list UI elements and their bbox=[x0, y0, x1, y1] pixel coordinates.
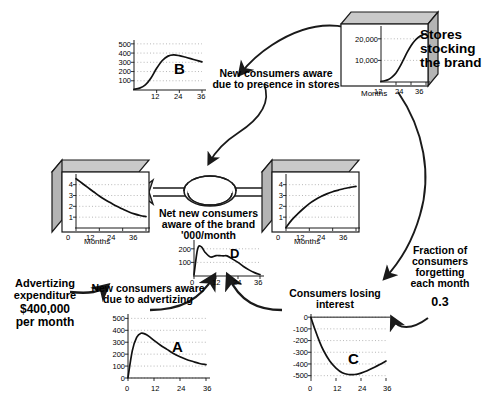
axis-title-right-stock: Months bbox=[294, 237, 320, 246]
ytick-label: 200 bbox=[118, 67, 131, 76]
chart-box-a[interactable]: 0100200300400500 0 12 24 36 A bbox=[96, 312, 218, 392]
label-stores-stocking: Stores stocking the brand bbox=[420, 28, 492, 71]
box-top-face bbox=[262, 160, 359, 172]
ytick-label: 500 bbox=[118, 40, 131, 49]
ytick-label: 200 bbox=[112, 350, 125, 359]
ytick-label: 500 bbox=[112, 314, 125, 323]
chart-box-left-stock[interactable]: 1234 0 12 24 36 Months bbox=[52, 158, 150, 240]
ytick-label: 1 bbox=[69, 213, 73, 222]
xtick-24: 24 bbox=[358, 384, 366, 393]
box-top-face bbox=[341, 12, 438, 24]
axis-title-stores: Months bbox=[361, 89, 387, 98]
xtick-24: 24 bbox=[233, 278, 241, 287]
label-forgetting-value: 0.3 bbox=[390, 296, 490, 309]
label-new-aware-stores: New consumers aware due to presence in s… bbox=[206, 68, 346, 90]
box-left-face bbox=[52, 160, 62, 232]
ytick-label: 3 bbox=[69, 191, 73, 200]
chart-letter-b: B bbox=[174, 60, 185, 77]
box-front-face bbox=[341, 24, 428, 86]
plot-area-a: 0100200300400500 bbox=[112, 314, 210, 383]
ytick-label: 10,000 bbox=[355, 56, 378, 65]
ytick-label: 0 bbox=[304, 313, 308, 322]
ytick-label: 4 bbox=[69, 180, 73, 189]
data-series-a bbox=[128, 333, 206, 377]
box-top-face bbox=[52, 160, 149, 172]
ytick-label: 4 bbox=[279, 180, 283, 189]
xtick-36: 36 bbox=[129, 233, 137, 242]
xtick-36: 36 bbox=[415, 87, 423, 96]
xtick-0: 0 bbox=[308, 384, 312, 393]
ytick-label: -400 bbox=[293, 360, 308, 369]
xtick-36: 36 bbox=[383, 384, 391, 393]
arrow-new-aware-stores-to-valve bbox=[209, 84, 266, 163]
chart-box-b[interactable]: 100200300400500 12 24 36 B bbox=[108, 38, 214, 100]
valve-mask bbox=[188, 180, 232, 194]
xtick-12: 12 bbox=[151, 384, 159, 393]
xtick-24: 24 bbox=[177, 384, 185, 393]
xtick-24: 24 bbox=[174, 92, 182, 101]
axis-title-left-stock: Months bbox=[84, 237, 110, 246]
xtick-12: 12 bbox=[151, 92, 159, 101]
chart-letter-a: A bbox=[172, 338, 183, 355]
ytick-label: 20,000 bbox=[355, 35, 378, 44]
xtick-36: 36 bbox=[254, 278, 262, 287]
chart-a: 0100200300400500 0 12 24 36 A bbox=[96, 312, 218, 392]
chart-c: 0-100-200-300-400-500 0 12 24 36 C bbox=[276, 312, 398, 392]
ytick-label: 2 bbox=[69, 202, 73, 211]
ytick-label: 300 bbox=[112, 338, 125, 347]
ytick-label: 2 bbox=[279, 202, 283, 211]
chart-box-c[interactable]: 0-100-200-300-400-500 0 12 24 36 C bbox=[276, 312, 398, 392]
chart-box-right-stock[interactable]: 1234 0 12 24 36 Months bbox=[262, 158, 360, 240]
data-series-d bbox=[194, 246, 260, 275]
label-forgetting-fraction: Fraction of consumers forgetting each mo… bbox=[390, 245, 490, 289]
ytick-label: -200 bbox=[293, 336, 308, 345]
ytick-label: 400 bbox=[118, 49, 131, 58]
chart-b: 100200300400500 12 24 36 B bbox=[108, 38, 214, 100]
xtick-12: 12 bbox=[212, 278, 220, 287]
label-advertizing-amount: $400,000 per month bbox=[2, 303, 88, 328]
ytick-label: -500 bbox=[293, 371, 308, 380]
ytick-label: 1 bbox=[279, 213, 283, 222]
plot-area-c: 0-100-200-300-400-500 bbox=[293, 313, 390, 381]
xtick-12: 12 bbox=[333, 384, 341, 393]
ytick-label: -300 bbox=[293, 348, 308, 357]
label-new-aware-advertizing: New consumers aware due to advertizing bbox=[88, 283, 208, 305]
xtick-0: 0 bbox=[66, 233, 70, 242]
box-front-face bbox=[62, 172, 149, 232]
chart-box-d[interactable]: 100200 0 12 24 36 D bbox=[168, 238, 268, 286]
ytick-label: 300 bbox=[118, 58, 131, 67]
xtick-0: 0 bbox=[276, 233, 280, 242]
label-consumers-losing-interest: Consumers losing interest bbox=[280, 288, 390, 310]
xtick-36: 36 bbox=[339, 233, 347, 242]
diagram-canvas: 10,00020,000 12 24 36 Months Stores stoc… bbox=[0, 0, 492, 397]
label-advertizing-expenditure: Advertizing expenditure bbox=[2, 278, 88, 301]
ytick-label: 200 bbox=[178, 245, 191, 254]
xtick-24: 24 bbox=[395, 87, 403, 96]
xtick-36: 36 bbox=[203, 384, 211, 393]
chart-left-stock: 1234 0 12 24 36 bbox=[52, 158, 150, 240]
chart-d: 100200 0 12 24 36 D bbox=[168, 238, 268, 286]
ytick-label: 3 bbox=[279, 191, 283, 200]
chart-letter-d: D bbox=[230, 246, 239, 261]
ytick-label: 100 bbox=[112, 362, 125, 371]
box-front-face bbox=[272, 172, 359, 232]
ytick-label: 100 bbox=[118, 76, 131, 85]
xtick-0: 0 bbox=[125, 384, 129, 393]
plot-area-d: 100200 bbox=[178, 240, 264, 279]
ytick-label: -100 bbox=[293, 325, 308, 334]
label-net-new-consumers: Net new consumers aware of the brand '00… bbox=[146, 208, 271, 241]
chart-right-stock: 1234 0 12 24 36 bbox=[262, 158, 360, 240]
data-series-b bbox=[134, 55, 202, 89]
ytick-label: 100 bbox=[178, 258, 191, 267]
ytick-label: 400 bbox=[112, 326, 125, 335]
plot-area-b: 100200300400500 bbox=[118, 40, 206, 93]
chart-letter-c: C bbox=[348, 350, 359, 367]
xtick-36: 36 bbox=[197, 92, 205, 101]
ytick-label: 0 bbox=[121, 374, 125, 383]
